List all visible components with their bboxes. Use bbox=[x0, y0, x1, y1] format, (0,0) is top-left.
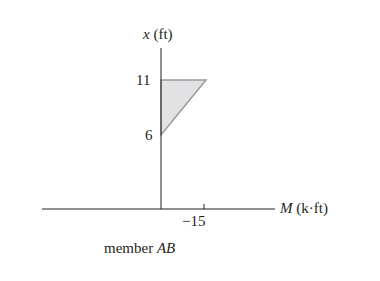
y-axis-label: x (ft) bbox=[143, 27, 173, 42]
x-tick-label: −15 bbox=[182, 214, 205, 229]
y-tick-6: 6 bbox=[145, 128, 153, 143]
caption-text: member bbox=[104, 240, 157, 256]
x-axis-variable: M bbox=[280, 200, 293, 216]
moment-area bbox=[161, 80, 206, 135]
y-axis-variable: x bbox=[143, 26, 150, 42]
caption-member: AB bbox=[157, 240, 175, 256]
x-axis-label: M (k·ft) bbox=[280, 201, 328, 216]
y-axis-unit: (ft) bbox=[153, 26, 172, 42]
y-tick-11: 11 bbox=[136, 73, 150, 88]
x-axis-unit: (k·ft) bbox=[296, 200, 328, 216]
caption: member AB bbox=[104, 241, 175, 256]
moment-diagram bbox=[0, 0, 380, 281]
